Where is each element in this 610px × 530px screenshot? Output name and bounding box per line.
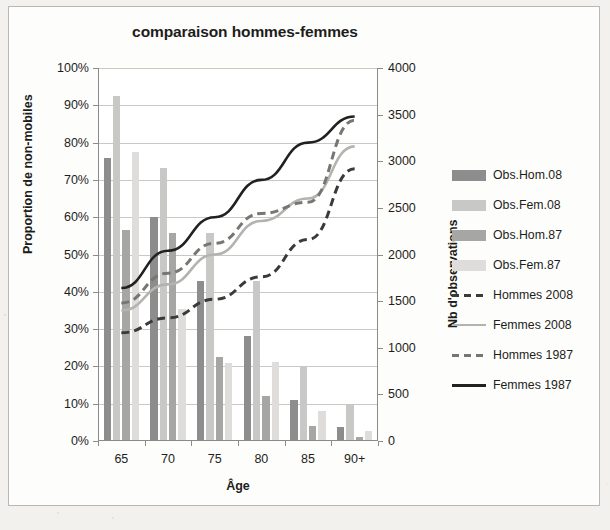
legend-item-obs-fem-08[interactable]: Obs.Fem.08	[452, 190, 602, 220]
y-axis-right-tick-label: 3000	[388, 154, 440, 168]
chart: comparaison hommes-femmes Proportion de …	[0, 0, 610, 530]
legend-item-label: Obs.Hom.87	[493, 228, 562, 242]
y-axis-left-tick-label: 0%	[37, 434, 89, 448]
x-axis-tick	[145, 441, 146, 446]
y-axis-right-tick	[378, 208, 383, 209]
x-axis-tick-label: 80	[254, 452, 268, 466]
legend-dashed-line-icon	[452, 289, 486, 301]
y-axis-left-tick-label: 90%	[37, 98, 89, 112]
x-axis-tick-label: 90+	[344, 452, 365, 466]
legend-item-label: Femmes 2008	[493, 318, 572, 332]
legend-item-label: Hommes 2008	[493, 288, 573, 302]
x-axis-tick-label: 75	[208, 452, 222, 466]
x-axis-tick-label: 85	[301, 452, 315, 466]
y-axis-left-tick	[93, 68, 98, 69]
y-axis-right-tick-label: 3500	[388, 108, 440, 122]
y-axis-right-tick	[378, 115, 383, 116]
legend-swatch-icon	[452, 170, 486, 181]
x-axis-tick	[238, 441, 239, 446]
legend-item-label: Femmes 1987	[493, 378, 572, 392]
y-axis-left-tick-label: 30%	[37, 322, 89, 336]
legend-solid-line-icon	[452, 379, 486, 391]
y-axis-left-tick	[93, 105, 98, 106]
y-axis-right-tick-label: 2500	[388, 201, 440, 215]
legend-item-femmes-2008[interactable]: Femmes 2008	[452, 310, 602, 340]
legend-line-glyph	[452, 354, 486, 357]
y-axis-left-tick-label: 20%	[37, 359, 89, 373]
y-axis-right-tick	[378, 68, 383, 69]
y-axis-right-tick-label: 1000	[388, 341, 440, 355]
legend-item-hommes-2008[interactable]: Hommes 2008	[452, 280, 602, 310]
legend-line-glyph	[452, 324, 486, 326]
chart-title: comparaison hommes-femmes	[95, 23, 395, 41]
y-axis-right-tick	[378, 301, 383, 302]
legend-item-label: Obs.Hom.08	[493, 168, 562, 182]
y-axis-left-line	[98, 68, 99, 441]
line-hommes-1987	[121, 120, 354, 303]
y-axis-left-tick	[93, 217, 98, 218]
y-axis-left-tick-label: 40%	[37, 285, 89, 299]
x-axis-tick-label: 65	[114, 452, 128, 466]
y-axis-left-tick	[93, 292, 98, 293]
y-axis-right-tick	[378, 255, 383, 256]
legend-item-label: Obs.Fem.08	[493, 198, 561, 212]
y-axis-left-tick	[93, 143, 98, 144]
legend-item-hommes-1987[interactable]: Hommes 1987	[452, 340, 602, 370]
y-axis-left-tick	[93, 404, 98, 405]
x-axis-tick	[285, 441, 286, 446]
y-axis-right-tick-label: 2000	[388, 248, 440, 262]
y-axis-left-tick	[93, 329, 98, 330]
legend-dashed-line-icon	[452, 349, 486, 361]
y-axis-left-tick	[93, 366, 98, 367]
line-femmes-1987	[121, 116, 354, 288]
y-axis-left-tick-label: 80%	[37, 136, 89, 150]
x-axis-tick-label: 70	[161, 452, 175, 466]
y-axis-left-tick-label: 10%	[37, 397, 89, 411]
y-axis-right-tick-label: 4000	[388, 61, 440, 75]
y-axis-right-tick	[378, 161, 383, 162]
y-axis-right-tick	[378, 394, 383, 395]
x-axis-tick	[191, 441, 192, 446]
lines-layer	[98, 68, 378, 441]
y-axis-right-tick-label: 0	[388, 434, 440, 448]
legend-solid-line-icon	[452, 319, 486, 331]
y-axis-right-tick	[378, 348, 383, 349]
legend-line-glyph	[452, 384, 486, 387]
y-axis-left-tick-label: 50%	[37, 248, 89, 262]
y-axis-left-tick	[93, 255, 98, 256]
y-axis-left-tick-label: 70%	[37, 173, 89, 187]
legend-item-obs-hom-08[interactable]: Obs.Hom.08	[452, 160, 602, 190]
y-axis-left-tick	[93, 180, 98, 181]
y-axis-left-tick-label: 100%	[37, 61, 89, 75]
legend-swatch-icon	[452, 230, 486, 241]
legend-item-obs-hom-87[interactable]: Obs.Hom.87	[452, 220, 602, 250]
x-axis-title: Âge	[98, 479, 378, 493]
legend-item-label: Hommes 1987	[493, 348, 573, 362]
plot-area: 0%10%20%30%40%50%60%70%80%90%100% 050010…	[98, 68, 378, 441]
x-axis-tick	[378, 441, 379, 446]
y-axis-right-tick-label: 500	[388, 387, 440, 401]
x-axis-tick	[331, 441, 332, 446]
legend-item-label: Obs.Fem.87	[493, 258, 561, 272]
y-axis-title-left: Proportion de non-mobiles	[21, 94, 35, 254]
x-axis-tick	[98, 441, 99, 446]
legend-line-glyph	[452, 294, 486, 297]
legend-item-femmes-1987[interactable]: Femmes 1987	[452, 370, 602, 400]
legend-swatch-icon	[452, 260, 486, 271]
legend-item-obs-fem-87[interactable]: Obs.Fem.87	[452, 250, 602, 280]
legend-swatch-icon	[452, 200, 486, 211]
chart-legend: Obs.Hom.08Obs.Fem.08Obs.Hom.87Obs.Fem.87…	[452, 160, 602, 400]
y-axis-left-tick-label: 60%	[37, 210, 89, 224]
y-axis-right-tick-label: 1500	[388, 294, 440, 308]
